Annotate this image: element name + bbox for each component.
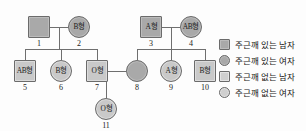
- blood-type-label: B형: [56, 67, 67, 75]
- stem-line-10: [205, 49, 206, 60]
- legend-item-unaffected-male: 주근깨 없는 남자: [219, 68, 306, 84]
- symbol-female-affected[interactable]: AB형: [180, 16, 202, 38]
- symbol-male-affected[interactable]: [28, 16, 50, 38]
- symbol-female-unaffected[interactable]: O형: [95, 98, 117, 120]
- person-number: 1: [28, 39, 50, 48]
- legend-label: 주근깨 있는 남자: [235, 38, 295, 50]
- stem-line-7: [97, 49, 98, 60]
- person-number: 5: [14, 83, 36, 92]
- blood-type-label: B형: [200, 67, 211, 75]
- legend-item-affected-male: 주근깨 있는 남자: [219, 36, 306, 52]
- blood-type-label: A형: [165, 67, 176, 75]
- blood-type-label: AB형: [183, 23, 199, 31]
- stem-line-6: [61, 49, 62, 60]
- person-number: 7: [86, 83, 108, 92]
- legend-label: 주근깨 없는 남자: [235, 70, 295, 82]
- blood-type-label: O형: [91, 67, 102, 75]
- legend-square-light-icon: [219, 71, 230, 82]
- legend-circle-light-icon: [219, 87, 230, 98]
- symbol-male-unaffected[interactable]: O형: [86, 60, 108, 82]
- symbol-female-affected[interactable]: B형: [68, 16, 90, 38]
- person-number: 2: [68, 39, 90, 48]
- blood-type-label: A형: [145, 23, 156, 31]
- legend-item-affected-female: 주근깨 있는 여자: [219, 52, 306, 68]
- symbol-male-unaffected[interactable]: AB형: [14, 60, 36, 82]
- person-number: 8: [126, 83, 148, 92]
- symbol-male-affected[interactable]: A형: [140, 16, 162, 38]
- legend-label: 주근깨 없는 여자: [235, 86, 295, 98]
- stem-line-8: [137, 49, 138, 60]
- blood-type-label: O형: [100, 105, 111, 113]
- descent-line-3-4: [171, 27, 172, 49]
- person-number: 6: [50, 83, 72, 92]
- symbol-female-unaffected[interactable]: A형: [160, 60, 182, 82]
- symbol-male-unaffected[interactable]: B형: [194, 60, 216, 82]
- blood-type-label: B형: [74, 23, 85, 31]
- pedigree-chart: 1 B형 2 A형 3 AB형 4 AB형 5 B형 6 O형 7: [0, 0, 306, 131]
- person-number: 4: [180, 39, 202, 48]
- symbol-female-affected[interactable]: [126, 60, 148, 82]
- marriage-line-7-8: [108, 71, 126, 72]
- symbol-female-unaffected[interactable]: B형: [50, 60, 72, 82]
- legend-item-unaffected-female: 주근깨 없는 여자: [219, 84, 306, 100]
- legend-square-dark-icon: [219, 39, 230, 50]
- legend: 주근깨 있는 남자 주근깨 있는 여자 주근깨 없는 남자 주근깨 없는 여자: [219, 36, 306, 100]
- legend-circle-dark-icon: [219, 55, 230, 66]
- descent-line-1-2: [59, 27, 60, 49]
- person-number: 11: [95, 121, 117, 130]
- person-number: 3: [140, 39, 162, 48]
- person-number: 10: [194, 83, 216, 92]
- stem-line-9: [171, 49, 172, 60]
- person-number: 9: [160, 83, 182, 92]
- legend-label: 주근깨 있는 여자: [235, 54, 295, 66]
- stem-line-5: [25, 49, 26, 60]
- blood-type-label: AB형: [17, 67, 33, 75]
